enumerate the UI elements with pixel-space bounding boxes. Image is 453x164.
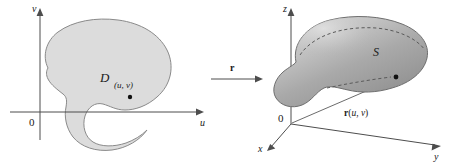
parametric-surface-diagram: v u 0 D (u, v) r z xyxy=(0,0,453,164)
z-axis-label: z xyxy=(282,3,287,14)
u-axis-arrowhead xyxy=(196,109,204,116)
xyz-origin-label: 0 xyxy=(278,112,284,124)
figure-root: v u 0 D (u, v) r z xyxy=(0,0,453,164)
position-vector-label: r(u, v) xyxy=(344,108,368,119)
surface-s-label: S xyxy=(373,45,379,59)
mapping-arrow-group: r xyxy=(211,62,263,82)
mapping-arrow-head xyxy=(255,76,263,83)
y-axis-arrowhead xyxy=(432,144,441,151)
vector-label-close-paren: ) xyxy=(365,108,368,119)
x-axis-label: x xyxy=(257,143,263,154)
y-axis-label: y xyxy=(433,151,439,162)
v-axis-label: v xyxy=(32,3,37,14)
uv-point-dot xyxy=(128,95,132,99)
y-axis-line xyxy=(291,124,435,145)
uv-origin-label: 0 xyxy=(29,116,35,128)
x-axis-arrowhead xyxy=(267,144,275,151)
region-d-label: D xyxy=(99,70,110,85)
surface-s-group xyxy=(274,17,428,107)
u-axis-label: u xyxy=(200,117,205,128)
uv-point-label: (u, v) xyxy=(114,80,133,90)
v-axis-arrowhead xyxy=(37,8,44,16)
left-panel-uv-plane: v u 0 D (u, v) xyxy=(10,3,205,150)
right-panel-xyz-space: z y x 0 xyxy=(257,3,441,162)
surface-point-dot xyxy=(394,75,399,80)
mapping-arrow-label-r: r xyxy=(230,62,235,73)
x-axis-line xyxy=(271,124,291,147)
z-axis-arrowhead xyxy=(288,8,295,16)
